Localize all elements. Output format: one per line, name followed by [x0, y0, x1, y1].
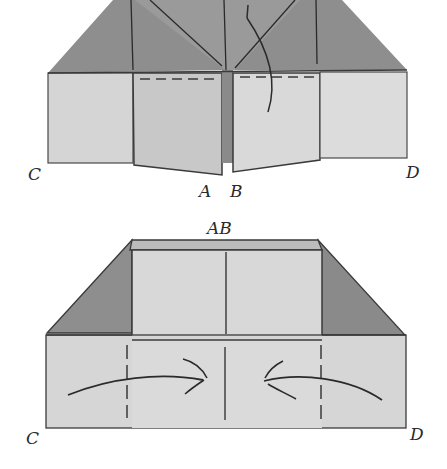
step1-label-c: C	[28, 164, 41, 184]
step1-left-panel	[48, 73, 133, 163]
step1-label-d: D	[405, 162, 420, 182]
step2-label-c: C	[26, 428, 39, 448]
step1-inner-right-flap	[233, 73, 320, 172]
step2-label-ab: AB	[205, 218, 232, 238]
step1-figure: C D A B	[28, 0, 420, 201]
step2-label-d: D	[409, 424, 424, 444]
origami-diagram: C D A B AB C D	[0, 0, 447, 469]
step2-dark-left-triangle	[47, 240, 132, 333]
step1-label-b: B	[229, 181, 243, 201]
step1-right-panel	[320, 72, 407, 158]
step2-upper-flap	[132, 250, 322, 340]
step2-dark-right-triangle	[318, 240, 405, 335]
step1-label-a: A	[197, 181, 211, 201]
step1-inner-left-flap	[133, 73, 222, 175]
step2-figure: AB C D	[26, 218, 424, 448]
